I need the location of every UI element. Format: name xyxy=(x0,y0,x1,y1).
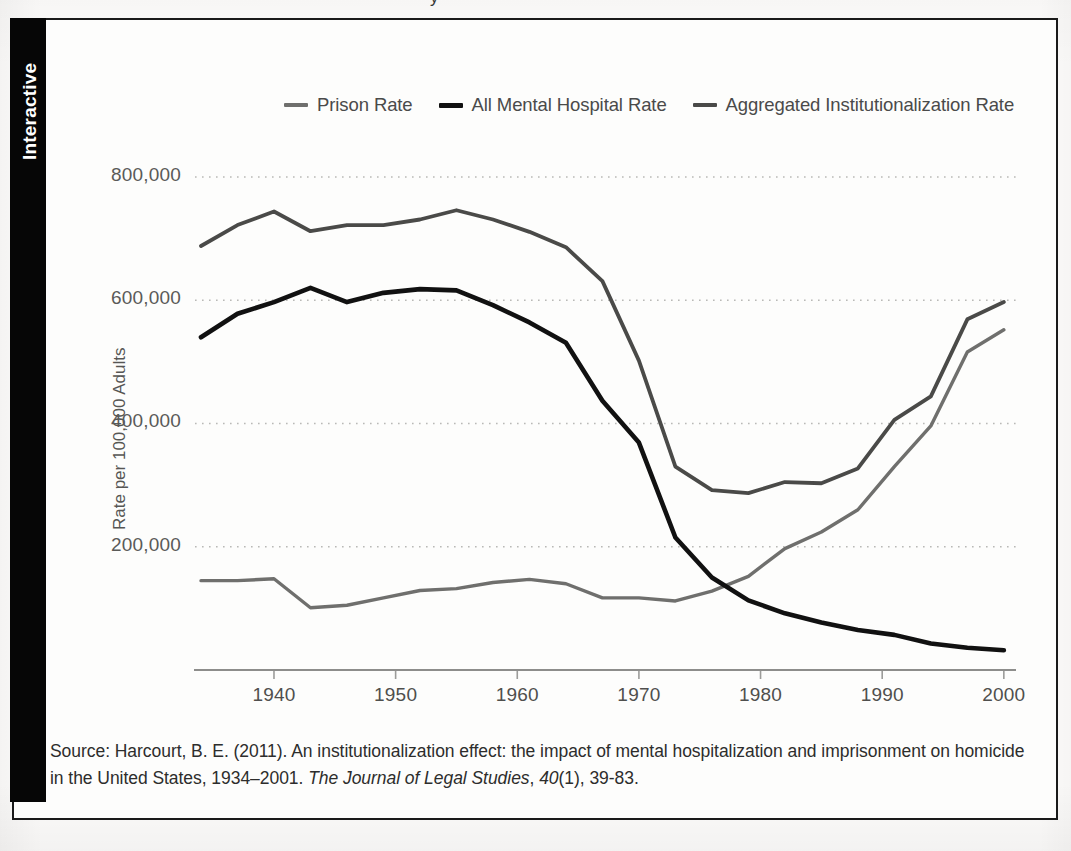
x-tick-label-2000: 2000 xyxy=(964,684,1044,706)
plot-area: Rate per 100,000 Adults 200,000400,00060… xyxy=(14,20,1060,822)
source-line-2-c: (1), 39-83. xyxy=(559,768,639,788)
gridlines xyxy=(195,177,1016,547)
x-tick-label-1940: 1940 xyxy=(234,684,314,706)
source-note: Source: Harcourt, B. E. (2011). An insti… xyxy=(50,738,1040,791)
source-line-2-b: , xyxy=(530,768,540,788)
data-series-group xyxy=(201,210,1004,650)
source-volume: 40 xyxy=(539,768,558,788)
figure-inner: Prison Rate All Mental Hospital Rate Agg… xyxy=(14,20,1056,818)
source-journal-title: The Journal of Legal Studies xyxy=(308,768,529,788)
x-tick-label-1990: 1990 xyxy=(842,684,922,706)
y-tick-label-400000: 400,000 xyxy=(51,410,181,432)
source-line-1: Source: Harcourt, B. E. (2011). An insti… xyxy=(50,741,926,761)
series-line-aggregated-institutionalization-rate[interactable] xyxy=(201,210,1004,493)
interactive-tab-label: Interactive xyxy=(19,63,41,160)
figure-frame: Prison Rate All Mental Hospital Rate Agg… xyxy=(12,18,1058,820)
series-line-all-mental-hospital-rate[interactable] xyxy=(201,288,1004,650)
x-tick-label-1960: 1960 xyxy=(477,684,557,706)
x-tick-label-1980: 1980 xyxy=(721,684,801,706)
clipped-top-text: y xyxy=(0,0,1071,16)
y-tick-label-600000: 600,000 xyxy=(51,287,181,309)
y-tick-label-200000: 200,000 xyxy=(51,534,181,556)
y-tick-label-800000: 800,000 xyxy=(51,164,181,186)
x-tick-label-1970: 1970 xyxy=(599,684,679,706)
x-axis-ticks xyxy=(274,670,1004,679)
series-line-prison-rate[interactable] xyxy=(201,330,1004,608)
x-tick-label-1950: 1950 xyxy=(356,684,436,706)
clipped-top-text-value: y xyxy=(430,0,439,8)
figure-page: y Prison Rate All Mental Hospital Rate A… xyxy=(0,0,1071,851)
y-axis-title: Rate per 100,000 Adults xyxy=(110,348,130,530)
interactive-tab[interactable]: Interactive xyxy=(10,18,46,802)
